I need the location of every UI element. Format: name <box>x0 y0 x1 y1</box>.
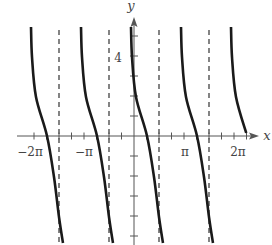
curve-branch <box>231 27 246 133</box>
curve-branch <box>131 27 163 243</box>
x-tick-label-pi: π <box>181 145 189 159</box>
x-tick-label-neg-pi: −π <box>75 145 93 159</box>
curve-branch <box>31 27 63 243</box>
axes <box>17 17 259 245</box>
curves <box>31 27 246 243</box>
curve-branch <box>81 27 113 243</box>
curve-branch <box>181 27 213 243</box>
chart: y x 4 −2π −π π 2π <box>0 0 272 245</box>
y-axis-label: y <box>126 0 135 13</box>
x-tick-label-neg-2pi: −2π <box>17 145 43 159</box>
x-axis-label: x <box>263 128 271 143</box>
x-tick-label-2pi: 2π <box>230 145 246 159</box>
y-tick-label-4: 4 <box>114 51 122 65</box>
